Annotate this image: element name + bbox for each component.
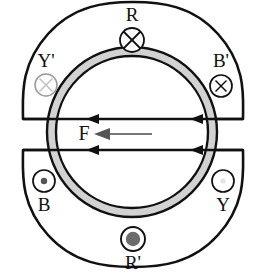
marker-B-prime-label: B' <box>213 50 229 71</box>
physics-diagram-svg: F R Y' B' B Y R' <box>0 0 266 280</box>
torus-ring <box>47 47 217 217</box>
marker-B-prime: B' <box>210 50 232 97</box>
diagram-canvas: F R Y' B' B Y R' <box>0 0 266 280</box>
force-label: F <box>78 122 89 144</box>
marker-R-prime-label: R' <box>125 252 141 273</box>
marker-Y-prime-label: Y' <box>37 50 54 71</box>
marker-Y-prime: Y' <box>35 50 57 96</box>
marker-R-label: R <box>126 4 139 25</box>
marker-Y: Y <box>212 170 234 215</box>
marker-Y-label: Y <box>216 194 230 215</box>
marker-B-label: B <box>38 194 51 215</box>
marker-R: R <box>120 4 144 52</box>
marker-B: B <box>33 170 55 215</box>
